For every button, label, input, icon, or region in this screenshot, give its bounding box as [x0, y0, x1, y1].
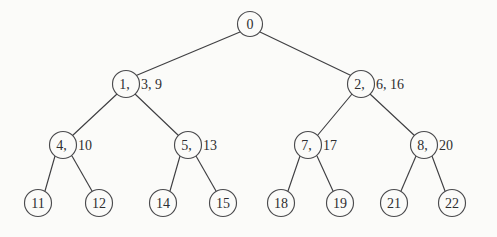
tree-edge [432, 156, 445, 191]
tree-edge [317, 94, 352, 136]
node-label: 7, [301, 138, 312, 153]
tree-node[interactable]: 15 [210, 190, 237, 217]
tree-edge [288, 156, 300, 191]
node-label: 11 [31, 196, 44, 211]
tree-edge [45, 156, 55, 191]
tree-node[interactable]: 22 [439, 190, 466, 217]
tree-node[interactable]: 8,20 [411, 132, 454, 159]
tree-edge [72, 94, 117, 136]
tree-node[interactable]: 2,6, 16 [348, 71, 405, 98]
tree-node[interactable]: 11 [25, 190, 52, 217]
node-label: 18 [274, 196, 288, 211]
tree-edge [135, 94, 179, 136]
node-label: 5, [181, 138, 192, 153]
tree-edge [317, 156, 333, 191]
node-label: 15 [216, 196, 230, 211]
tree-edge [196, 156, 216, 191]
node-label: 12 [92, 196, 106, 211]
edges-group [45, 32, 445, 191]
node-annotation: 13 [203, 138, 217, 153]
node-annotation: 6, 16 [376, 77, 404, 92]
tree-edge [260, 32, 352, 76]
node-label: 22 [445, 196, 459, 211]
node-label: 14 [156, 196, 170, 211]
node-label: 8, [417, 138, 428, 153]
tree-node[interactable]: 14 [150, 190, 177, 217]
tree-edge [170, 156, 180, 191]
tree-node[interactable]: 7,17 [295, 132, 338, 159]
node-label: 21 [387, 196, 401, 211]
tree-edge [72, 156, 92, 191]
binary-tree-diagram: 01,3, 92,6, 164,105,137,178,201112141518… [0, 0, 497, 237]
node-label: 1, [119, 77, 130, 92]
node-label: 19 [333, 196, 347, 211]
node-annotation: 20 [439, 138, 453, 153]
node-label: 4, [56, 138, 67, 153]
node-annotation: 3, 9 [141, 77, 162, 92]
tree-edge [135, 32, 240, 76]
tree-node[interactable]: 4,10 [50, 132, 93, 159]
tree-edge [401, 156, 416, 191]
tree-canvas: 01,3, 92,6, 164,105,137,178,201112141518… [0, 0, 497, 237]
tree-edge [370, 94, 415, 136]
tree-node[interactable]: 5,13 [175, 132, 218, 159]
node-label: 0 [247, 17, 254, 32]
tree-node[interactable]: 12 [86, 190, 113, 217]
node-label: 2, [354, 77, 365, 92]
tree-node[interactable]: 21 [381, 190, 408, 217]
nodes-group: 01,3, 92,6, 164,105,137,178,201112141518… [25, 12, 466, 217]
tree-node[interactable]: 19 [327, 190, 354, 217]
node-annotation: 10 [78, 138, 92, 153]
tree-node[interactable]: 0 [238, 12, 263, 37]
tree-node[interactable]: 18 [268, 190, 295, 217]
node-annotation: 17 [323, 138, 337, 153]
